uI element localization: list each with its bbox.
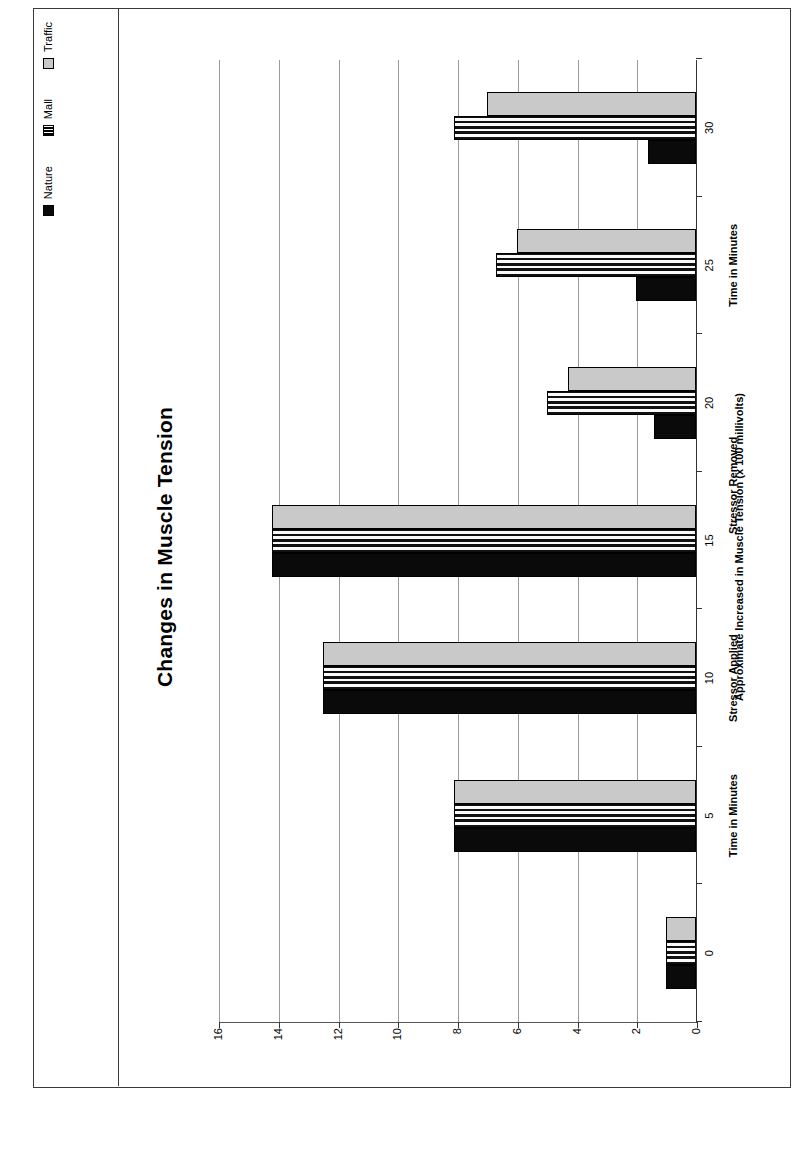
bar-traffic-30[interactable] <box>487 92 696 116</box>
bar-traffic-15[interactable] <box>272 505 696 529</box>
bar-nature-30[interactable] <box>648 140 696 164</box>
category-axis-tick <box>696 58 702 59</box>
bar-traffic-20[interactable] <box>568 367 696 391</box>
bar-group <box>218 609 696 747</box>
mall-swatch-icon <box>43 125 54 136</box>
bar-group <box>218 747 696 885</box>
category-axis-tick <box>696 471 702 472</box>
bar-group <box>218 334 696 472</box>
bar-nature-10[interactable] <box>323 690 696 714</box>
bar-group <box>218 197 696 335</box>
legend-label-mall: Mall <box>43 99 54 119</box>
category-label-15: 15 <box>703 521 715 561</box>
legend-label-nature: Nature <box>43 166 54 199</box>
bar-traffic-10[interactable] <box>323 642 696 666</box>
chart-figure: Nature Mall Traffic Changes in Muscle Te… <box>33 8 789 1086</box>
category-axis-tick <box>696 1021 702 1022</box>
bar-mall-15[interactable] <box>272 529 696 553</box>
category-label-10: 10 <box>703 658 715 698</box>
value-axis-tick-label: 2 <box>630 1028 642 1056</box>
bar-mall-10[interactable] <box>323 666 696 690</box>
category-label-0: 0 <box>703 933 715 973</box>
category-label-20: 20 <box>703 383 715 423</box>
rotated-figure-wrapper: Nature Mall Traffic Changes in Muscle Te… <box>33 8 789 1086</box>
legend-item-traffic[interactable]: Traffic <box>43 22 54 69</box>
value-axis-tick-label: 6 <box>511 1028 523 1056</box>
value-axis-tick-label: 16 <box>212 1028 224 1056</box>
bar-nature-20[interactable] <box>654 415 696 439</box>
legend-items: Nature Mall Traffic <box>43 22 54 216</box>
bar-nature-5[interactable] <box>454 828 696 852</box>
plot-area: 0246810121416051015202530Time in Minutes… <box>219 60 697 1023</box>
bar-mall-20[interactable] <box>547 391 696 415</box>
chart-title: Changes in Muscle Tension <box>153 8 177 1086</box>
legend-item-mall[interactable]: Mall <box>43 99 54 136</box>
bar-nature-25[interactable] <box>636 277 696 301</box>
bar-nature-0[interactable] <box>666 965 696 989</box>
bar-traffic-5[interactable] <box>454 780 696 804</box>
bar-mall-5[interactable] <box>454 804 696 828</box>
bar-group <box>218 472 696 610</box>
category-label-30: 30 <box>703 108 715 148</box>
category-axis-tick <box>696 746 702 747</box>
bar-traffic-0[interactable] <box>666 917 696 941</box>
bar-mall-25[interactable] <box>496 253 696 277</box>
bar-traffic-25[interactable] <box>517 229 696 253</box>
legend-label-traffic: Traffic <box>43 22 54 52</box>
bar-mall-0[interactable] <box>666 941 696 965</box>
value-axis-tick-label: 10 <box>391 1028 403 1056</box>
category-axis-tick <box>696 883 702 884</box>
value-axis-tick-label: 12 <box>332 1028 344 1056</box>
page-canvas: Nature Mall Traffic Changes in Muscle Te… <box>0 0 806 1163</box>
value-axis-tick-label: 4 <box>571 1028 583 1056</box>
bar-mall-30[interactable] <box>454 116 696 140</box>
nature-swatch-icon <box>43 205 54 216</box>
category-label-25: 25 <box>703 245 715 285</box>
value-axis-tick-label: 0 <box>690 1028 702 1056</box>
value-axis-tick-label: 14 <box>272 1028 284 1056</box>
category-axis-tick <box>696 333 702 334</box>
category-axis-tick <box>696 196 702 197</box>
value-axis-title: Approximate Increased in Muscle Tension … <box>733 8 745 1086</box>
bar-group <box>218 884 696 1022</box>
category-axis-tick <box>696 608 702 609</box>
legend-item-nature[interactable]: Nature <box>43 166 54 216</box>
traffic-swatch-icon <box>43 58 54 69</box>
category-label-5: 5 <box>703 796 715 836</box>
bar-nature-15[interactable] <box>272 553 696 577</box>
value-axis-tick-label: 8 <box>451 1028 463 1056</box>
bar-group <box>218 59 696 197</box>
chart-legend: Nature Mall Traffic <box>33 8 119 1086</box>
